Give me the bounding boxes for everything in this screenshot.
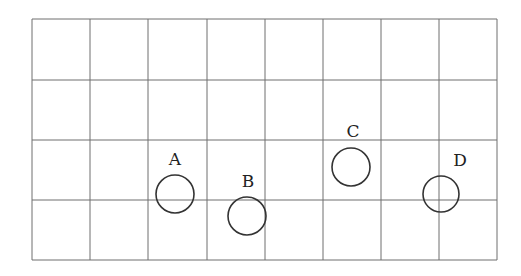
circle-label: A [168,149,182,169]
circle-label: C [346,121,359,141]
circle-d: D [423,150,467,212]
grid-diagram: ABCD [0,0,521,276]
circle-label: D [453,150,467,170]
circle-c: C [332,121,370,186]
circle-shape [156,175,194,213]
circle-a: A [156,149,194,213]
circle-label: B [242,171,255,191]
circle-shape [423,176,459,212]
circle-b: B [228,171,266,235]
circles-group: ABCD [156,121,467,235]
circle-shape [228,197,266,235]
circle-shape [332,148,370,186]
